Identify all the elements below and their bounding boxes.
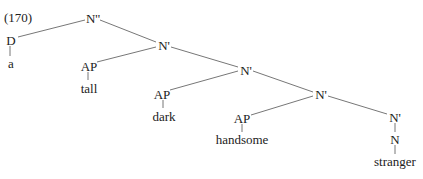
node-ap-1: AP [81,60,98,73]
node-nbar-2: N' [240,64,252,77]
word-a: a [8,57,14,70]
node-nbar-1: N' [158,39,170,52]
node-determiner: D [6,34,15,47]
syntax-tree-diagram: (170) N'' D a N' AP tall N' AP dark N' A… [0,0,423,179]
node-nbar-4: N' [389,111,401,124]
example-number: (170) [4,11,32,24]
tree-branches [0,0,423,179]
node-root-nbar-bar: N'' [86,12,100,25]
word-dark: dark [152,110,175,123]
node-noun: N [390,133,399,146]
node-nbar-3: N' [315,88,327,101]
node-ap-2: AP [154,88,171,101]
node-ap-3: AP [234,112,251,125]
word-stranger: stranger [374,155,416,168]
word-tall: tall [81,82,98,95]
word-handsome: handsome [216,133,269,146]
